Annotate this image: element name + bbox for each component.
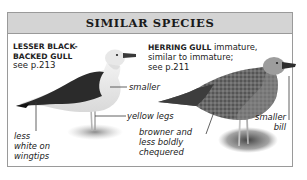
species-label-herring-gull: HERRING GULL immature, similar to immatu…: [148, 43, 257, 72]
note-yellow-legs: yellow legs: [127, 111, 174, 121]
note-wingtips: less white on wingtips: [14, 131, 50, 161]
species-label-lesser-black-backed-gull: LESSER BLACK- BACKED GULL see p.213: [13, 42, 78, 71]
note-smaller-bill: smaller bill: [253, 112, 286, 132]
page-reference: see p.213: [13, 61, 78, 71]
note-plumage: browner and less boldly chequered: [139, 127, 192, 157]
note-smaller: smaller: [129, 82, 160, 92]
page-reference: see p.211: [148, 63, 257, 73]
